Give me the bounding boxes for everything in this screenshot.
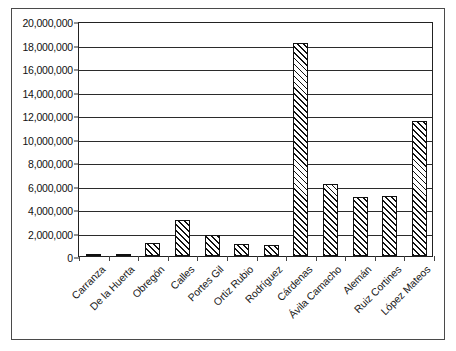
- y-tick-label: 8,000,000: [28, 158, 73, 170]
- bar: [293, 43, 308, 256]
- bar: [116, 254, 131, 256]
- x-tick-mark: [434, 256, 435, 261]
- x-axis-label: Obregón: [130, 263, 167, 300]
- bar: [175, 220, 190, 256]
- bar: [234, 244, 249, 256]
- y-tick-label: 6,000,000: [28, 182, 73, 194]
- y-tick-label: 10,000,000: [22, 135, 73, 147]
- bar: [86, 254, 101, 256]
- bar: [382, 196, 397, 256]
- plot-area: 20,000,00018,000,00016,000,00014,000,000…: [78, 22, 433, 257]
- y-tick-label: 0: [67, 252, 73, 264]
- y-tick-label: 16,000,000: [22, 64, 73, 76]
- y-tick-label: 12,000,000: [22, 111, 73, 123]
- bar-series: [79, 23, 432, 256]
- x-axis-labels: CarranzaDe la HuertaObregónCallesPortes …: [78, 259, 433, 349]
- y-tick-label: 20,000,000: [22, 17, 73, 29]
- x-axis-label-text: Ávila Camacho: [286, 263, 344, 321]
- bar: [323, 184, 338, 256]
- bar: [145, 243, 160, 257]
- bar: [205, 235, 220, 256]
- bar: [353, 197, 368, 256]
- y-tick-label: 18,000,000: [22, 41, 73, 53]
- x-axis-label: Ávila Camacho: [286, 263, 344, 321]
- y-tick-label: 14,000,000: [22, 88, 73, 100]
- x-axis-label-text: Obregón: [130, 263, 167, 300]
- y-tick-label: 4,000,000: [28, 205, 73, 217]
- y-tick-label: 2,000,000: [28, 229, 73, 241]
- chart-figure: 20,000,00018,000,00016,000,00014,000,000…: [0, 0, 456, 351]
- bar: [264, 245, 279, 256]
- bar: [412, 121, 427, 256]
